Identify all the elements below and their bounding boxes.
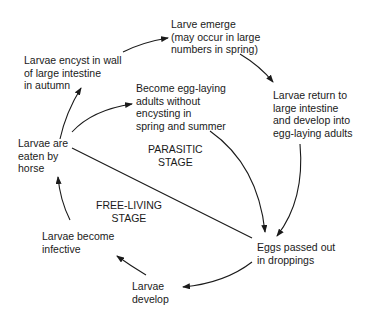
- node-larvae-return: Larvae return to large intestine and dev…: [273, 89, 352, 139]
- arrow-become-to-eggs: [210, 131, 265, 232]
- arrow-develop-to-infective: [117, 256, 146, 275]
- node-larvae-infective: Larvae become infective: [42, 230, 114, 255]
- arrow-eggs-to-develop: [183, 262, 252, 287]
- stage-label-free-living: FREE-LIVING STAGE: [96, 199, 162, 224]
- stage-label-parasitic: PARASITIC STAGE: [148, 143, 203, 168]
- arrow-eaten-to-encyst: [60, 88, 81, 139]
- node-become-egg-laying: Become egg-laying adults without encysti…: [136, 82, 226, 132]
- node-larvae-eaten: Larvae are eaten by horse: [18, 137, 68, 175]
- arrow-emerge-to-return: [240, 54, 273, 82]
- arrow-encyst-to-emerge: [123, 38, 168, 52]
- life-cycle-diagram: Larvae encyst in wall of large intestine…: [0, 0, 371, 316]
- node-larvae-emerge: Larve emerge (may occur in large numbers…: [171, 18, 260, 56]
- node-larvae-develop: Larvae develop: [132, 280, 169, 305]
- arrow-infective-to-eaten: [58, 177, 70, 220]
- arrow-return-to-eggs: [277, 144, 301, 236]
- arrow-eaten-to-become: [72, 104, 132, 132]
- node-eggs-passed: Eggs passed out in droppings: [257, 241, 335, 266]
- node-larvae-encyst: Larvae encyst in wall of large intestine…: [24, 54, 121, 92]
